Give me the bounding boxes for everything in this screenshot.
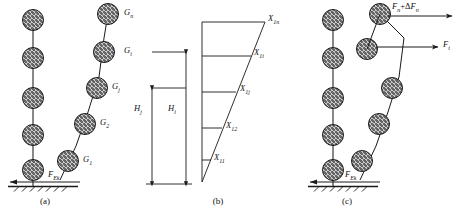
panel-a-mass-g1 — [58, 151, 79, 172]
label-ordinate-x11: X11 — [214, 153, 225, 164]
label-base-shear-c: FEk — [345, 170, 357, 181]
panel-c-mass-1 — [352, 151, 373, 172]
panel-a-mass-g2 — [75, 114, 96, 135]
panel-a-node-undeformed — [23, 48, 44, 69]
panel-a-node-undeformed — [23, 160, 44, 181]
label-top-force: Fn+ΔFn — [392, 2, 419, 13]
label-ordinate-x12: X12 — [226, 121, 237, 132]
panel-b-group — [202, 22, 265, 182]
caption-panel-b: (b) — [203, 196, 233, 206]
label-base-shear-a: FEk — [48, 170, 60, 181]
structural-diagram-svg — [0, 0, 462, 216]
panel-a-node-undeformed — [23, 10, 44, 31]
panel-c-node-undeformed — [323, 10, 344, 31]
label-ordinate-x1j: X1j — [240, 84, 250, 95]
label-ordinate-x1n: X1n — [268, 14, 279, 25]
label-mass-g2: G2 — [100, 118, 109, 129]
label-mass-gi: Gi — [124, 46, 132, 57]
panel-c-node-undeformed — [323, 88, 344, 109]
panel-c-mass-j — [382, 78, 403, 99]
label-mass-gn: Gn — [124, 8, 133, 19]
panel-a-group — [8, 4, 192, 192]
caption-panel-c: (c) — [332, 196, 362, 206]
label-storey-force: Fi — [443, 40, 450, 51]
label-mass-g1: G1 — [83, 155, 92, 166]
panel-c-mass-2 — [369, 114, 390, 135]
panel-c-group — [308, 4, 452, 192]
label-height-hj: Hj — [134, 104, 142, 115]
panel-c-node-undeformed — [323, 125, 344, 146]
label-height-hi: Hi — [168, 104, 176, 115]
panel-a-node-undeformed — [23, 88, 44, 109]
panel-a-mass-gi — [94, 42, 115, 63]
panel-a-node-undeformed — [23, 125, 44, 146]
label-mass-gj: Gj — [112, 82, 120, 93]
panel-c-node-undeformed — [323, 48, 344, 69]
panel-a-mass-gj — [87, 78, 108, 99]
panel-b-hypotenuse — [202, 22, 265, 182]
label-ordinate-x1i: X1i — [254, 48, 264, 59]
figure-root: Gn Gi Gj G2 G1 FEk Hj Hi X1n X1i X1j X12… — [0, 0, 462, 216]
caption-panel-a: (a) — [30, 196, 60, 206]
panel-c-base-shear-arrowhead — [310, 180, 317, 185]
panel-a-mass-gn — [98, 4, 119, 25]
panel-a-base-shear-arrowhead — [10, 180, 17, 185]
panel-c-node-undeformed — [323, 160, 344, 181]
